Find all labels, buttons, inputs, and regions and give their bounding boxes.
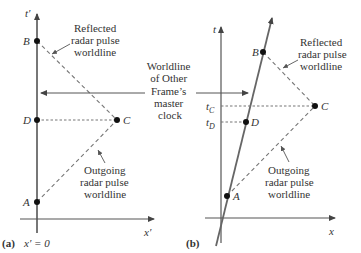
panel-a-tag: (a) — [2, 237, 15, 250]
event-b-b — [260, 49, 266, 55]
panel-a: t′ x′ B D C A Reflected radar pulse worl… — [2, 7, 154, 250]
event-b-a — [34, 38, 40, 44]
tick-label-tc: tC — [206, 100, 215, 115]
outgoing-pointer-b — [281, 146, 289, 162]
event-d-a — [34, 117, 40, 123]
label-c-b: C — [321, 100, 329, 112]
outgoing-label-b: Outgoing radar pulse worldline — [265, 164, 316, 200]
label-d-a: D — [22, 114, 31, 126]
x-prime-axis-label: x′ — [143, 226, 152, 238]
t-axis-label: t — [213, 23, 217, 35]
outgoing-pointer-a — [98, 150, 105, 163]
event-c-b — [312, 103, 318, 109]
label-a-b: A — [232, 190, 240, 202]
master-clock-label: Worldline of Other Frame’s master clock — [147, 60, 193, 121]
tick-label-td: tD — [206, 116, 215, 131]
t-prime-axis-label: t′ — [25, 7, 31, 19]
label-a-a: A — [22, 196, 30, 208]
reflected-label-b: Reflected radar pulse worldline — [298, 36, 349, 72]
panel-b: t x B C D A tC tD Reflected radar pulse … — [186, 18, 349, 250]
spacetime-diagram: t′ x′ B D C A Reflected radar pulse worl… — [0, 0, 361, 253]
x-prime-zero-label: x′ = 0 — [23, 237, 50, 249]
label-c-a: C — [123, 114, 131, 126]
reflected-label-a: Reflected radar pulse worldline — [71, 22, 122, 58]
reflected-pointer-b — [283, 60, 298, 68]
event-d-b — [243, 119, 249, 125]
outgoing-label-a: Outgoing radar pulse worldline — [80, 164, 131, 200]
label-b-b: B — [252, 46, 259, 58]
center-label-group: Worldline of Other Frame’s master clock — [41, 60, 248, 121]
x-axis-label: x — [328, 225, 334, 237]
event-a-a — [34, 199, 40, 205]
label-d-b: D — [250, 116, 259, 128]
event-c-a — [114, 117, 120, 123]
panel-b-tag: (b) — [186, 237, 200, 250]
label-b-a: B — [23, 35, 30, 47]
event-a-b — [224, 193, 230, 199]
reflected-pointer-a — [52, 44, 70, 54]
